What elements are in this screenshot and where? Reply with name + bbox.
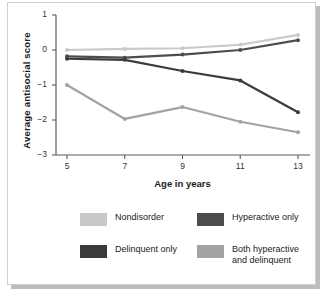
legend-swatch-icon bbox=[197, 213, 224, 226]
legend-label: Hyperactive only bbox=[232, 212, 299, 223]
series-line bbox=[65, 33, 300, 52]
legend-label: Both hyperactive and delinquent bbox=[232, 244, 299, 266]
figure-container: 1 0 −1 −2 −3 5 7 9 11 13 Average antisoc… bbox=[0, 0, 325, 299]
x-axis-title: Age in years bbox=[55, 178, 310, 189]
x-tick-label: 9 bbox=[172, 161, 194, 171]
legend-item-delinquent-only: Delinquent only bbox=[80, 244, 177, 258]
legend-swatch-icon bbox=[197, 245, 224, 258]
legend-item-nondisorder: Nondisorder bbox=[80, 212, 164, 226]
x-tick-label: 11 bbox=[229, 161, 251, 171]
x-tick-label: 7 bbox=[114, 161, 136, 171]
chart-legend: Nondisorder Hyperactive only Delinquent … bbox=[80, 212, 312, 274]
legend-label: Nondisorder bbox=[115, 212, 164, 223]
x-tick-label: 5 bbox=[56, 161, 78, 171]
y-axis-title: Average antisocial score bbox=[21, 16, 32, 166]
legend-label: Delinquent only bbox=[115, 244, 177, 255]
legend-swatch-icon bbox=[80, 213, 107, 226]
x-tick-label: 13 bbox=[287, 161, 309, 171]
series-line bbox=[65, 83, 300, 134]
legend-item-both-hyperactive-and-delinquent: Both hyperactive and delinquent bbox=[197, 244, 299, 266]
legend-swatch-icon bbox=[80, 245, 107, 258]
axis-lines bbox=[52, 15, 310, 159]
legend-item-hyperactive-only: Hyperactive only bbox=[197, 212, 299, 226]
data-series-layer bbox=[65, 33, 300, 134]
